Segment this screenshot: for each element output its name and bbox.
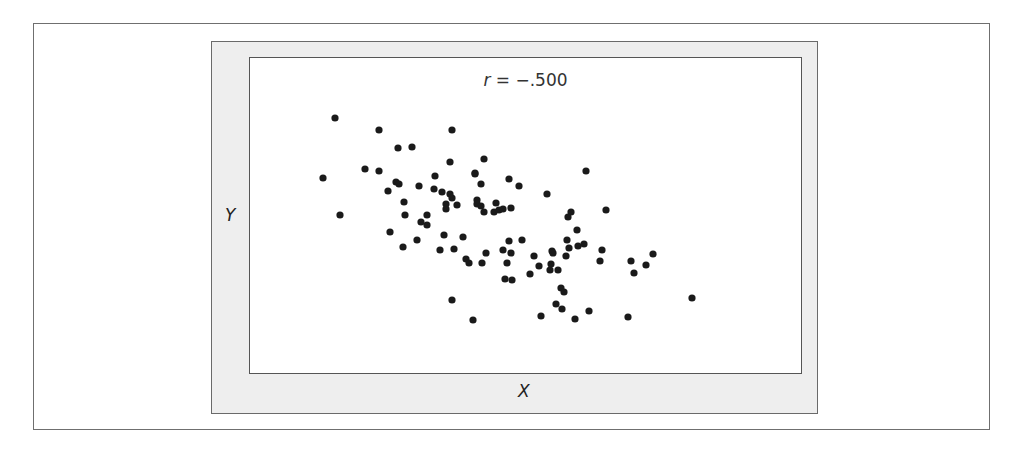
- plot-area: [249, 57, 802, 374]
- y-axis-label: Y: [225, 205, 235, 225]
- x-axis-label: X: [518, 381, 530, 401]
- title-value: = −.500: [490, 70, 567, 90]
- chart-title: r = −.500: [249, 70, 802, 90]
